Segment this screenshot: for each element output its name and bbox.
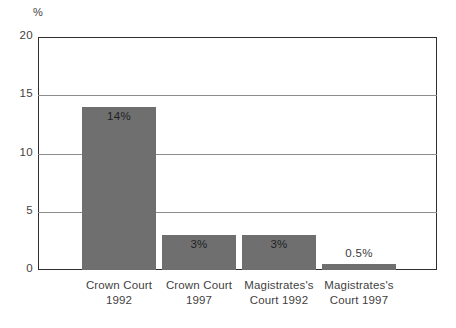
x-category-label-line2: Court 1997 <box>312 293 406 308</box>
bar-1[interactable] <box>82 107 156 270</box>
y-tick-label: 0 <box>1 262 33 274</box>
y-axis-unit-label: % <box>33 6 43 18</box>
bar-chart: % 05101520 14%3%3%0.5% Crown Court1992Cr… <box>0 0 456 328</box>
y-tick-label: 10 <box>1 146 33 158</box>
gridline-15 <box>38 95 437 96</box>
y-tick-label: 5 <box>1 204 33 216</box>
bar-value-label-4: 0.5% <box>322 247 396 259</box>
y-tick-label: 20 <box>1 29 33 41</box>
x-category-label-4: Magistrates'sCourt 1997 <box>312 278 406 308</box>
bar-value-label-3: 3% <box>242 238 316 250</box>
y-tick-label: 15 <box>1 87 33 99</box>
bar-value-label-1: 14% <box>82 110 156 122</box>
bar-value-label-2: 3% <box>162 238 236 250</box>
bar-4[interactable] <box>322 264 396 270</box>
x-category-label-line1: Magistrates's <box>312 278 406 293</box>
